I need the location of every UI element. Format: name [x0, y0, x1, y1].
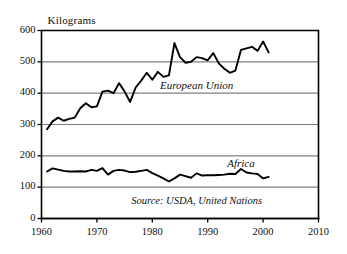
x-tick-label-1980: 1980: [135, 226, 169, 237]
y-tick-label-300: 300: [10, 118, 36, 129]
y-tick-label-600: 600: [10, 24, 36, 35]
x-tick-label-1990: 1990: [191, 226, 225, 237]
y-tick-label-200: 200: [10, 149, 36, 160]
x-tick-label-2010: 2010: [302, 226, 336, 237]
x-tick-label-1960: 1960: [25, 226, 59, 237]
chart-plot-area: [0, 0, 347, 254]
y-tick-label-400: 400: [10, 86, 36, 97]
series-label-africa: Africa: [227, 157, 255, 169]
chart-container: Kilograms European Union Africa Source: …: [0, 0, 347, 254]
y-tick-label-500: 500: [10, 55, 36, 66]
source-note: Source: USDA, United Nations: [131, 195, 262, 206]
y-tick-label-0: 0: [10, 212, 36, 223]
x-tick-label-2000: 2000: [246, 226, 280, 237]
series-label-european-union: European Union: [160, 79, 233, 91]
y-tick-label-100: 100: [10, 180, 36, 191]
series-line-european-union: [47, 41, 269, 129]
series-line-africa: [47, 168, 269, 181]
x-tick-label-1970: 1970: [80, 226, 114, 237]
